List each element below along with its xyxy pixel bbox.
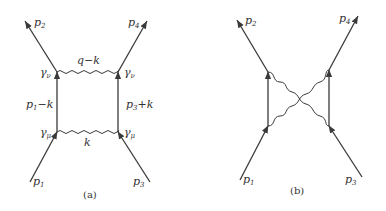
fermion-line-p1 bbox=[240, 126, 268, 180]
fermion-line-p3 bbox=[329, 126, 362, 177]
vertex-label-top-left: γν bbox=[40, 66, 52, 80]
label-p2: p2 bbox=[34, 16, 46, 30]
label-bottom-photon: k bbox=[84, 136, 91, 149]
label-p4: p4 bbox=[339, 12, 351, 26]
vertex-label-bottom-left: γμ bbox=[40, 126, 52, 140]
diagram-a: p2 p4 p1 p3 q−k k p1−k p3+k γν γν γμ γμ … bbox=[25, 16, 154, 200]
label-right-fermion: p3+k bbox=[126, 98, 154, 112]
feynman-diagrams: p2 p4 p1 p3 q−k k p1−k p3+k γν γν γμ γμ … bbox=[0, 0, 386, 211]
photon-line-top bbox=[57, 71, 119, 74]
diagram-b: p2 p4 p1 p3 (b) bbox=[237, 12, 362, 196]
label-p3: p3 bbox=[133, 175, 145, 189]
caption-b: (b) bbox=[290, 185, 304, 196]
caption-a: (a) bbox=[83, 189, 97, 200]
label-p1: p1 bbox=[33, 175, 45, 189]
label-p2: p2 bbox=[245, 14, 257, 28]
label-left-fermion: p1−k bbox=[26, 98, 54, 112]
label-top-photon: q−k bbox=[77, 54, 100, 67]
label-p1: p1 bbox=[243, 173, 255, 187]
photon-line-bottom bbox=[57, 131, 119, 134]
vertex-label-bottom-right: γμ bbox=[124, 126, 136, 140]
label-p3: p3 bbox=[345, 173, 357, 187]
photon-line-crossed-1 bbox=[268, 72, 329, 126]
vertex-label-top-right: γν bbox=[124, 66, 136, 80]
label-p4: p4 bbox=[128, 16, 140, 30]
